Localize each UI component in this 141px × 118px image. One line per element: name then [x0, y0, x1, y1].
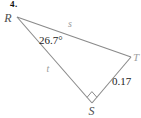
angle-label-R: 26.7° [39, 34, 63, 46]
vertex-label-T: T [133, 51, 140, 63]
geometry-problem-canvas: 4. R T S s t 0.17 26.7° [0, 0, 141, 118]
side-value-ST: 0.17 [112, 75, 132, 87]
triangle-diagram: R T S s t 0.17 26.7° [0, 0, 141, 118]
side-label-s: s [68, 18, 72, 29]
vertex-label-S: S [89, 104, 95, 118]
right-angle-marker [87, 92, 97, 98]
side-label-t: t [47, 63, 50, 74]
vertex-label-R: R [3, 11, 12, 25]
